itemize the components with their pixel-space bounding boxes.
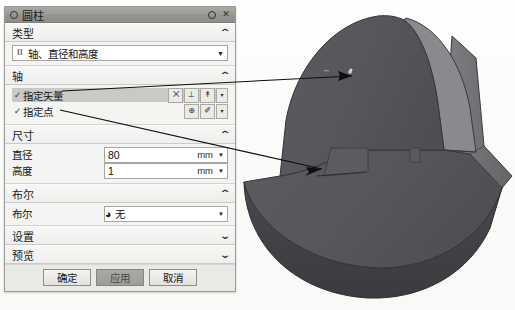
check-icon: ✓ (12, 107, 23, 116)
chevron-down-icon[interactable]: ▼ (215, 168, 227, 174)
section-header-dimensions[interactable]: 尺寸 ⌃ (5, 125, 235, 144)
reset-circle-icon[interactable] (206, 9, 218, 21)
section-body-axis: ✓ 指定矢量 ⨉ ⊥ ↟ ▾ ✓ 指定点 ⊕ ✐ ▾ (5, 85, 235, 125)
point-button-group[interactable]: ⊕ ✐ ▾ (184, 104, 228, 119)
cylinder-solid-model[interactable] (238, 0, 515, 310)
type-combobox[interactable]: ⌷ 轴、直径和高度 ▼ (12, 45, 228, 61)
cylinder-dialog[interactable]: 圆柱 ✕ 类型 ⌃ ⌷ 轴、直径和高度 ▼ 轴 ⌃ ✓ 指定矢量 (4, 6, 236, 292)
chevron-down-icon[interactable]: ⌄ (219, 231, 231, 241)
specify-point-row[interactable]: ✓ 指定点 ⊕ ✐ ▾ (12, 104, 228, 118)
section-header-preview[interactable]: 预览 ⌄ (5, 245, 235, 264)
specify-vector-label: 指定矢量 (23, 88, 168, 103)
check-icon: ✓ (12, 91, 23, 100)
height-field[interactable]: 1 mm ▼ (104, 163, 228, 179)
section-header-type[interactable]: 类型 ⌃ (5, 23, 235, 42)
section-body-type: ⌷ 轴、直径和高度 ▼ (5, 42, 235, 66)
cancel-button[interactable]: 取消 (149, 269, 197, 286)
chevron-down-icon[interactable]: ⌄ (219, 250, 231, 260)
section-title-type: 类型 (12, 25, 221, 41)
close-icon[interactable]: ✕ (220, 9, 232, 21)
point-dropdown-button[interactable]: ▾ (216, 104, 228, 119)
point-marker-dot (348, 70, 352, 74)
recess-tab-face (410, 148, 420, 162)
recess-rect-face (324, 148, 368, 176)
chevron-down-icon[interactable]: ▼ (215, 152, 227, 158)
point-snap-button[interactable]: ⊕ (184, 104, 199, 119)
cylinder-icon (8, 9, 19, 20)
boolean-combobox[interactable]: ◕ 无 ▼ (104, 206, 228, 222)
point-constructor-button[interactable]: ✐ (200, 104, 215, 119)
height-value[interactable]: 1 (105, 165, 197, 177)
section-title-preview: 预览 (12, 247, 221, 263)
section-header-boolean[interactable]: 布尔 ⌃ (5, 184, 235, 203)
vector-constructor-button[interactable]: ↟ (200, 88, 215, 103)
vector-dropdown-button[interactable]: ▾ (216, 88, 228, 103)
boolean-none-icon: ◕ (105, 208, 112, 220)
type-combobox-value: 轴、直径和高度 (28, 46, 214, 61)
chevron-up-icon[interactable]: ⌃ (219, 28, 231, 38)
apply-button[interactable]: 应用 (96, 269, 144, 286)
diameter-value[interactable]: 80 (105, 149, 197, 161)
dialog-body: 类型 ⌃ ⌷ 轴、直径和高度 ▼ 轴 ⌃ ✓ 指定矢量 ⨉ ⊥ ↟ ▾ (5, 23, 235, 264)
cad-viewport[interactable] (238, 0, 515, 310)
chevron-up-icon[interactable]: ⌃ (219, 189, 231, 199)
diameter-row: 直径 80 mm ▼ (12, 147, 228, 162)
section-title-settings: 设置 (12, 228, 221, 244)
boolean-row: 布尔 ◕ 无 ▼ (12, 206, 228, 221)
chevron-down-icon[interactable]: ▼ (215, 211, 227, 217)
chevron-up-icon[interactable]: ⌃ (219, 130, 231, 140)
chevron-down-icon[interactable]: ▼ (214, 46, 227, 60)
boolean-label: 布尔 (12, 206, 104, 221)
dialog-footer: 确定 应用 取消 (5, 264, 235, 291)
section-title-dimensions: 尺寸 (12, 127, 221, 143)
section-title-boolean: 布尔 (12, 186, 221, 202)
tick-marker (324, 70, 329, 71)
boolean-value: 无 (112, 206, 215, 221)
section-header-axis[interactable]: 轴 ⌃ (5, 66, 235, 85)
section-body-dimensions: 直径 80 mm ▼ 高度 1 mm ▼ (5, 144, 235, 184)
height-row: 高度 1 mm ▼ (12, 163, 228, 178)
height-label: 高度 (12, 163, 104, 178)
section-body-boolean: 布尔 ◕ 无 ▼ (5, 203, 235, 226)
chevron-up-icon[interactable]: ⌃ (219, 71, 231, 81)
vector-inference-button[interactable]: ⊥ (184, 88, 199, 103)
diameter-label: 直径 (12, 147, 104, 162)
diameter-unit: mm (197, 149, 215, 160)
height-unit: mm (197, 165, 215, 176)
vector-xyz-button[interactable]: ⨉ (168, 88, 183, 103)
diameter-field[interactable]: 80 mm ▼ (104, 147, 228, 163)
section-title-axis: 轴 (12, 68, 221, 84)
ok-button[interactable]: 确定 (43, 269, 91, 286)
specify-point-label: 指定点 (23, 104, 184, 119)
dialog-title: 圆柱 (22, 7, 206, 23)
section-header-settings[interactable]: 设置 ⌄ (5, 226, 235, 245)
dialog-titlebar[interactable]: 圆柱 ✕ (5, 7, 235, 23)
axis-diameter-height-icon: ⌷ (16, 49, 25, 58)
specify-vector-row[interactable]: ✓ 指定矢量 ⨉ ⊥ ↟ ▾ (12, 88, 228, 102)
vector-button-group[interactable]: ⨉ ⊥ ↟ ▾ (168, 88, 228, 103)
